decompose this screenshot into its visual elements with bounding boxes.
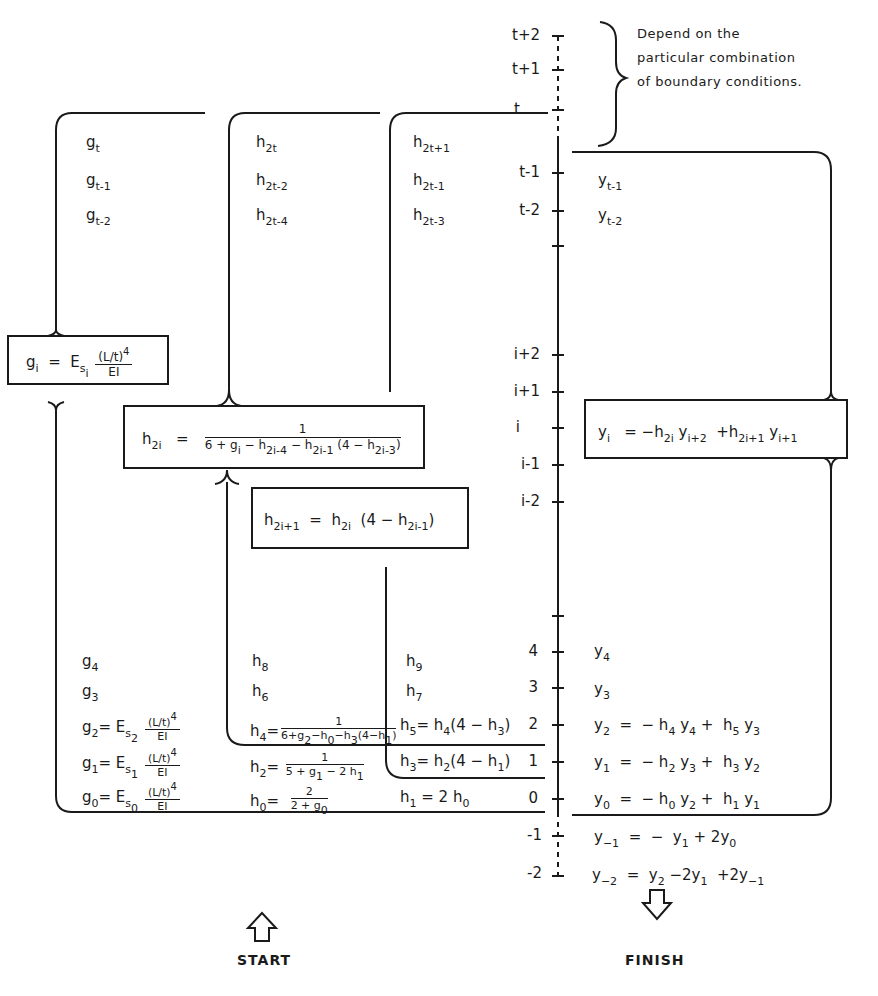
h-4-formula: h4=16+g2−h0−h3(4−h1)	[250, 716, 398, 746]
g-2-formula: g2= Es2 (L/t)4EI	[82, 712, 182, 744]
start-arrow-icon	[248, 913, 276, 941]
h-2t-4: h2t-4	[256, 208, 288, 227]
finish-label: FINISH	[625, 952, 685, 968]
tick-label: t-1	[490, 165, 540, 180]
h-2i-formula: h2i = 16 + gi − h2i-4 − h2i-1 (4 − h2i-3…	[142, 423, 403, 456]
h-6: h6	[252, 684, 269, 703]
g-4: g4	[82, 654, 99, 673]
note-line-1: Depend on the	[637, 22, 802, 46]
g-column-outline	[48, 113, 205, 336]
g-t-2: gt-2	[86, 208, 111, 227]
h-9: h9	[406, 654, 423, 673]
y-minus-1-formula: y−1 = − y1 + 2y0	[594, 830, 736, 849]
y-4: y4	[594, 644, 610, 663]
h-2-formula: h2= 15 + g1 − 2 h1	[250, 752, 366, 782]
y-minus-2-formula: y−2 = y2 −2y1 +2y−1	[592, 868, 764, 887]
g-t-1: gt-1	[86, 173, 111, 192]
tick-label: t	[470, 102, 520, 117]
h-even-outline	[217, 113, 380, 406]
tick-label: -2	[492, 866, 542, 881]
h-1-formula: h1 = 2 h0	[400, 790, 469, 809]
y-2-formula: y2 = − h4 y4 + h5 y3	[594, 718, 760, 737]
h-2t+1: h2t+1	[413, 135, 450, 154]
h-2t: h2t	[256, 135, 277, 154]
tick-label: t+1	[490, 62, 540, 77]
g-0-formula: g0= Es0 (L/t)4EI	[82, 782, 182, 814]
note-line-3: of boundary conditions.	[637, 70, 802, 94]
y-t-2: yt-2	[598, 208, 622, 227]
tick-label: 4	[488, 644, 538, 659]
tick-label: i	[470, 420, 520, 435]
note-line-2: particular combination	[637, 46, 802, 70]
h-3-formula: h3= h2(4 − h1)	[400, 754, 510, 773]
tick-label: i+1	[490, 384, 540, 399]
tick-label: 0	[488, 791, 538, 806]
y-i-formula: yi = −h2i yi+2 +h2i+1 yi+1	[598, 425, 798, 444]
tick-label: 3	[488, 680, 538, 695]
h-2t-1: h2t-1	[413, 173, 445, 192]
g-3: g3	[82, 684, 99, 703]
y-0-formula: y0 = − h0 y2 + h1 y1	[594, 792, 760, 811]
g-1-formula: g1= Es1 (L/t)4EI	[82, 748, 182, 780]
h-2t-2: h2t-2	[256, 173, 288, 192]
h-2t-3: h2t-3	[413, 208, 445, 227]
tick-label: i+2	[490, 347, 540, 362]
h-2i+1-formula: h2i+1 = h2i (4 − h2i-1)	[264, 513, 434, 532]
finish-arrow-icon	[643, 890, 671, 919]
y-3: y3	[594, 682, 610, 701]
y-1-formula: y1 = − h2 y3 + h3 y2	[594, 755, 760, 774]
g-t: gt	[86, 135, 100, 154]
tick-label: i-2	[490, 494, 540, 509]
g-i-formula: gi = Esi (L/t)4EI	[26, 347, 134, 379]
tick-label: -1	[492, 828, 542, 843]
start-label: START	[237, 952, 291, 968]
h-0-formula: h0= 22 + g0	[250, 786, 330, 816]
h-7: h7	[406, 684, 423, 703]
tick-label: i-1	[490, 457, 540, 472]
h-8: h8	[252, 654, 269, 673]
boundary-brace	[598, 22, 626, 146]
tick-label: t-2	[490, 203, 540, 218]
tick-label: t+2	[490, 28, 540, 43]
boundary-note: Depend on the particular combination of …	[637, 22, 802, 94]
y-t-1: yt-1	[598, 173, 622, 192]
h-5-formula: h5= h4(4 − h3)	[400, 718, 510, 737]
